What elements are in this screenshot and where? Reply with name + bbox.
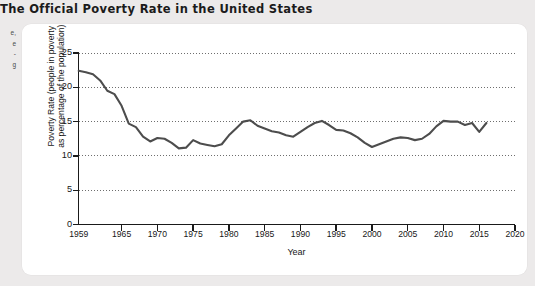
poverty-rate-line-chart [22,24,527,275]
margin-line-1: e [0,39,16,50]
chart-panel: Poverty Rate (people in poverty as perce… [22,24,527,275]
page-background: The Official Poverty Rate in the United … [0,0,535,286]
x-axis-title: Year [78,247,515,257]
margin-line-2: - [0,49,16,60]
margin-cutoff-text: e, e - g [0,28,16,70]
margin-line-3: g [0,60,16,71]
page-title: The Official Poverty Rate in the United … [0,2,520,16]
margin-line-0: e, [0,28,16,39]
series-line-official-poverty-rate [79,71,487,149]
